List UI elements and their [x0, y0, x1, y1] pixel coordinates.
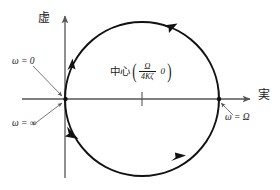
real-axis-label: 実: [258, 89, 270, 101]
close-paren: ): [167, 63, 171, 79]
open-paren: (: [132, 63, 136, 79]
circle-center-label: 中心 ( Ω 4Kζ 0 ): [110, 62, 173, 81]
fraction-denominator: 4Kζ: [139, 72, 156, 81]
omega-infinity-annotation: ω = ∞: [12, 119, 37, 129]
omega-zero-point: [63, 97, 67, 101]
fraction-numerator: Ω: [142, 62, 152, 71]
imaginary-axis-label: 虚: [38, 12, 50, 24]
center-second-coordinate: 0: [161, 67, 166, 76]
direction-arrow-lower-right: [171, 153, 186, 162]
center-fraction: Ω 4Kζ: [139, 62, 156, 81]
leader-omega-zero: [33, 66, 62, 96]
axis-group: [22, 16, 250, 178]
center-kanji-text: 中心: [110, 66, 130, 77]
diagram-canvas: [0, 0, 280, 190]
omega-zero-annotation: ω = 0: [12, 57, 35, 67]
direction-arrowheads: [65, 24, 186, 162]
omega-capital-point: [217, 97, 221, 101]
nyquist-diagram-figure: 虚 実 ω = 0 ω = ∞ ω = Ω 中心 ( Ω 4Kζ 0 ): [0, 0, 280, 190]
leader-omega-infinity: [33, 103, 62, 125]
omega-capital-annotation: ω = Ω: [225, 113, 250, 123]
